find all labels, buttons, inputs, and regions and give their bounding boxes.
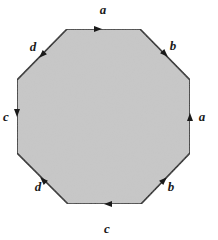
edge-label-right: a — [199, 109, 206, 124]
edge-label-lower-left: d — [35, 179, 42, 194]
edge-label-upper-right: b — [170, 38, 177, 53]
edge-label-left: c — [3, 109, 9, 124]
edge-label-lower-right: b — [168, 179, 175, 194]
octagon-diagram: ababcdcd — [0, 0, 218, 240]
edge-label-upper-left: d — [30, 39, 37, 54]
edge-label-bottom: c — [104, 221, 110, 236]
edge-label-top: a — [100, 2, 107, 17]
